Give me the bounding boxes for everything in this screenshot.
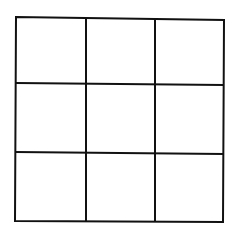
grid-horizontal-lines bbox=[15, 83, 224, 154]
grid-horizontal-line-1 bbox=[16, 83, 224, 85]
three-by-three-grid bbox=[0, 0, 239, 241]
grid-vertical-lines bbox=[86, 18, 155, 222]
grid-outer-border bbox=[15, 17, 224, 222]
grid-horizontal-line-2 bbox=[15, 152, 224, 154]
